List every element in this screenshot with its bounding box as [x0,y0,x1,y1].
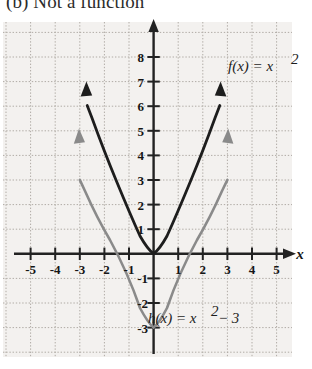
y-tick-label: 6 [138,99,145,114]
x-tick-label: -3 [74,262,85,277]
y-tick-label: 4 [138,148,145,163]
x-tick-label: -5 [25,262,36,277]
x-tick-label: -4 [50,262,61,277]
function-label-h-text: h(x) = x [148,310,197,327]
x-tick-label: 2 [200,262,207,277]
figure-caption: (b) Not a function [6,0,144,13]
y-tick-label: 3 [138,173,145,188]
graph-svg: -5 -4 -3 -2 -1 1 2 3 4 5 8 7 6 5 4 3 2 1 [0,18,312,369]
function-label-h-tail: − 3 [218,310,239,326]
y-tick-label: 5 [138,124,145,139]
y-tick-label: -2 [137,296,148,311]
x-tick-label: -1 [124,262,135,277]
x-axis-label: x [295,246,304,262]
y-tick-label: 1 [138,222,145,237]
x-tick-label: -2 [99,262,110,277]
function-label-f-exponent: 2 [291,51,299,67]
x-tick-label: 1 [175,262,182,277]
y-tick-label: -3 [137,321,148,336]
x-tick-label: 3 [224,262,231,277]
function-label-f-text: f(x) = x [228,58,273,75]
figure-container: (b) Not a function [0,0,312,369]
x-tick-label: 4 [249,262,256,277]
x-tick-label: 5 [273,262,280,277]
y-tick-label: -1 [137,271,148,286]
y-tick-label: 8 [138,50,145,65]
coordinate-plane: -5 -4 -3 -2 -1 1 2 3 4 5 8 7 6 5 4 3 2 1 [0,18,312,369]
y-tick-label: 7 [138,75,145,90]
y-tick-label: 2 [138,198,145,213]
